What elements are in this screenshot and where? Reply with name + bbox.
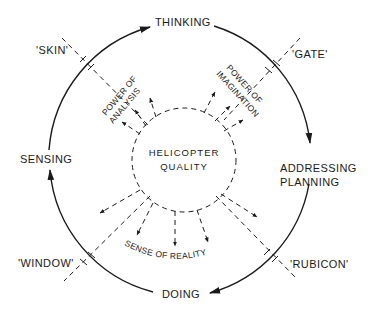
stage-doing: DOING xyxy=(162,288,200,300)
arc-doing-to-sensing xyxy=(50,170,153,292)
threshold-label-window: 'WINDOW' xyxy=(18,257,74,269)
stage-sensing: SENSING xyxy=(20,153,72,165)
stage-addressing: ADDRESSING xyxy=(280,162,357,174)
helicopter-quality-circle xyxy=(132,108,236,212)
stage-planning: PLANNING xyxy=(280,176,339,188)
reality-arrows xyxy=(100,190,257,246)
center-label-helicopter: HELICOPTER xyxy=(149,147,220,158)
helicopter-quality-cycle-diagram: THINKING ADDRESSING PLANNING DOING SENSI… xyxy=(0,0,373,313)
threshold-label-gate: 'GATE' xyxy=(292,48,328,60)
threshold-label-skin: 'SKIN' xyxy=(36,44,68,56)
stage-thinking: THINKING xyxy=(155,16,211,28)
threshold-rubicon xyxy=(216,196,296,278)
center-label-quality: QUALITY xyxy=(160,161,208,172)
sense-of-reality-label: SENSE OF REALITY xyxy=(123,238,207,261)
threshold-label-rubicon: 'RUBICON' xyxy=(290,258,349,270)
